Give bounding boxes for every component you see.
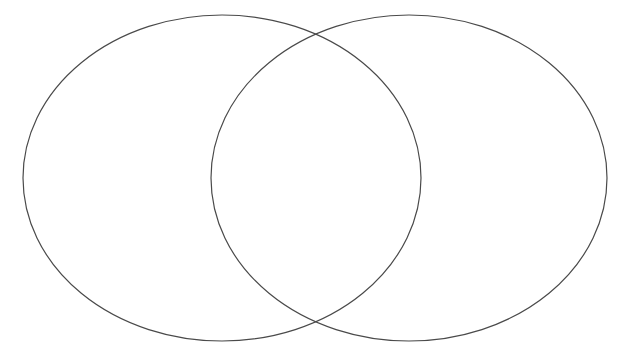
venn-diagram-svg	[0, 0, 627, 357]
venn-diagram-canvas	[0, 0, 627, 357]
